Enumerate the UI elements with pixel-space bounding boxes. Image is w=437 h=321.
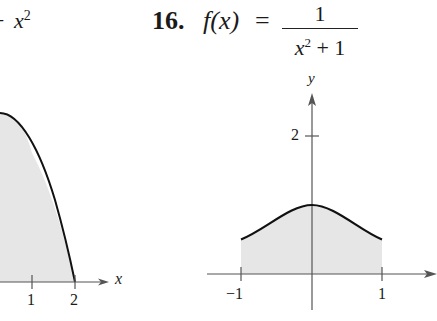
left-tick-label-1: 1 <box>27 291 35 309</box>
right-tick-label-x1: 1 <box>378 285 386 303</box>
right-graph <box>207 93 437 310</box>
right-tick-label-y2: 2 <box>291 126 299 144</box>
right-y-axis-label: y <box>308 70 315 87</box>
graphs-canvas <box>0 0 437 321</box>
left-shaded-area <box>0 113 75 282</box>
left-tick-label-2: 2 <box>70 291 78 309</box>
left-graph <box>0 113 109 289</box>
right-tick-label-xneg1: −1 <box>226 285 243 303</box>
left-x-axis-label: x <box>115 270 122 288</box>
